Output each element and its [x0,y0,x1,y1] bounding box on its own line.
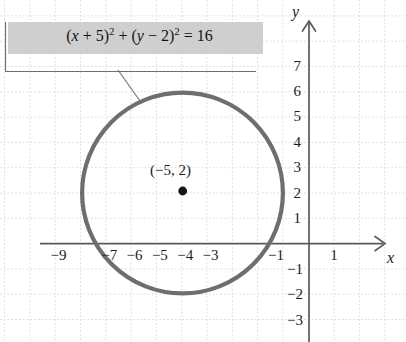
x-tick-label--6: −6 [123,248,147,263]
equation-rhs: 16 [197,27,213,44]
y-tick-label-3: 3 [281,160,301,175]
y-tick-label-4: 4 [281,135,301,150]
x-tick-label--3: −3 [199,248,223,263]
x-tick-label--4: −4 [173,248,197,263]
equation-minus: − [144,27,161,44]
axis-arrowheads [303,21,386,251]
y-tick-label--1: −1 [279,262,303,277]
y-tick-label-2: 2 [281,186,301,201]
y-tick-label-6: 6 [281,84,301,99]
equation-equals: = [180,27,197,44]
equation-x-var: x [72,27,79,44]
x-tick-label--1: −1 [264,248,288,263]
equation-operator: + [114,27,131,44]
equation-plus: + [79,27,96,44]
y-tick-label--2: −2 [279,287,303,302]
circle-graph-figure: (x + 5)2 + (y − 2)2 = 16 (−5, 2) y x −9 … [0,0,406,342]
x-tick-label--9: −9 [47,248,71,263]
y-tick-label--3: −3 [279,313,303,328]
equation-y-var: y [137,27,144,44]
y-tick-label-1: 1 [281,211,301,226]
x-tick-label--5: −5 [148,248,172,263]
center-coordinate-label: (−5, 2) [150,163,191,178]
y-axis-label: y [292,4,299,20]
equation-callout-text: (x + 5)2 + (y − 2)2 = 16 [16,27,263,45]
y-tick-label-7: 7 [281,59,301,74]
y-tick-label-5: 5 [281,109,301,124]
center-point-marker [178,187,187,196]
equation-y-const: 2 [161,27,169,44]
x-tick-label-1: 1 [325,248,343,263]
x-tick-label--7: −7 [97,248,121,263]
x-axis-label: x [387,250,394,266]
equation-x-const: 5 [96,27,104,44]
